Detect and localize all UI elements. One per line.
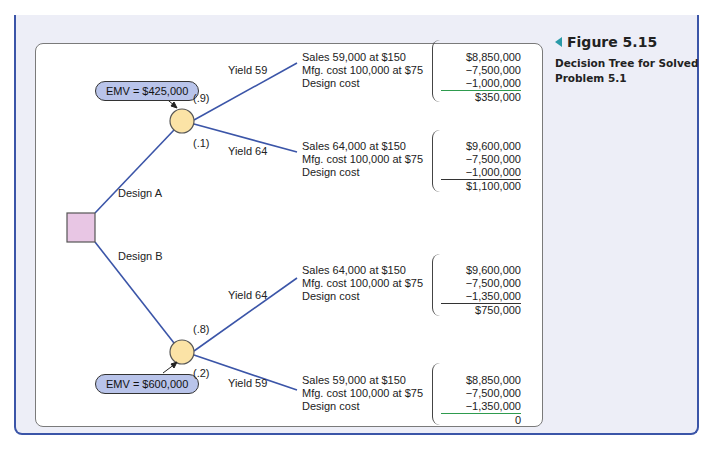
sales-line: Sales 59,000 at $150 xyxy=(302,51,423,64)
design-cost-line: Design cost xyxy=(302,166,423,179)
outcome-a-yield64-values: $9,600,000 −7,500,000 −1,000,000 $1,100,… xyxy=(441,140,521,193)
outcome-b-yield64-values: $9,600,000 −7,500,000 −1,350,000 $750,00… xyxy=(441,264,521,317)
mfg-cost-line: Mfg. cost 100,000 at $75 xyxy=(302,277,423,290)
emv-bubble-design-b: EMV = $600,000 xyxy=(95,374,199,394)
mfg-cost-line: Mfg. cost 100,000 at $75 xyxy=(302,153,423,166)
probability-b-yield64: (.8) xyxy=(193,323,210,335)
value-mfg: −7,500,000 xyxy=(441,387,521,400)
branch-design-a-line xyxy=(95,130,174,213)
value-design: −1,350,000 xyxy=(441,400,521,414)
sales-line: Sales 64,000 at $150 xyxy=(302,264,423,277)
probability-b-yield59: (.2) xyxy=(193,367,210,379)
outcome-a-yield59-description: Sales 59,000 at $150 Mfg. cost 100,000 a… xyxy=(302,51,423,90)
value-design: −1,000,000 xyxy=(441,77,521,91)
brace-icon xyxy=(432,254,441,316)
value-mfg: −7,500,000 xyxy=(441,64,521,77)
value-total: $750,000 xyxy=(441,304,521,317)
figure-number: Figure 5.15 xyxy=(567,34,657,50)
brace-icon xyxy=(432,363,441,425)
yield-label-a-64: Yield 64 xyxy=(228,145,267,157)
value-sales: $9,600,000 xyxy=(441,264,521,277)
probability-a-yield59: (.9) xyxy=(193,92,210,104)
mfg-cost-line: Mfg. cost 100,000 at $75 xyxy=(302,387,423,400)
yield-label-b-59: Yield 59 xyxy=(228,377,267,389)
value-total: 0 xyxy=(441,414,521,427)
figure-caption: Figure 5.15 Decision Tree for Solved Pro… xyxy=(555,34,705,86)
design-a-label: Design A xyxy=(118,187,162,199)
decision-node-square xyxy=(67,213,95,242)
design-cost-line: Design cost xyxy=(302,290,423,303)
brace-icon xyxy=(432,130,441,192)
design-b-label: Design B xyxy=(118,250,163,262)
outcome-a-yield59-values: $8,850,000 −7,500,000 −1,000,000 $350,00… xyxy=(441,51,521,104)
caption-arrow-icon xyxy=(555,37,562,47)
sales-line: Sales 64,000 at $150 xyxy=(302,140,423,153)
value-design: −1,000,000 xyxy=(441,166,521,180)
chance-node-a xyxy=(170,109,194,133)
design-cost-line: Design cost xyxy=(302,77,423,90)
value-sales: $8,850,000 xyxy=(441,51,521,64)
figure-subtitle: Decision Tree for Solved Problem 5.1 xyxy=(555,56,705,86)
brace-icon xyxy=(432,40,441,102)
value-total: $1,100,000 xyxy=(441,180,521,193)
yield-label-b-64: Yield 64 xyxy=(228,289,267,301)
probability-a-yield64: (.1) xyxy=(193,137,210,149)
value-mfg: −7,500,000 xyxy=(441,153,521,166)
outcome-b-yield59-values: $8,850,000 −7,500,000 −1,350,000 0 xyxy=(441,374,521,427)
value-design: −1,350,000 xyxy=(441,290,521,304)
chance-node-b xyxy=(170,340,194,364)
outcome-b-yield64-description: Sales 64,000 at $150 Mfg. cost 100,000 a… xyxy=(302,264,423,303)
outcome-a-yield64-description: Sales 64,000 at $150 Mfg. cost 100,000 a… xyxy=(302,140,423,179)
value-mfg: −7,500,000 xyxy=(441,277,521,290)
sales-line: Sales 59,000 at $150 xyxy=(302,374,423,387)
value-total: $350,000 xyxy=(441,91,521,104)
figure-title: Figure 5.15 xyxy=(555,34,705,50)
emv-bubble-design-a: EMV = $425,000 xyxy=(95,81,199,101)
value-sales: $8,850,000 xyxy=(441,374,521,387)
mfg-cost-line: Mfg. cost 100,000 at $75 xyxy=(302,64,423,77)
yield-label-a-59: Yield 59 xyxy=(228,64,267,76)
design-cost-line: Design cost xyxy=(302,400,423,413)
value-sales: $9,600,000 xyxy=(441,140,521,153)
outcome-b-yield59-description: Sales 59,000 at $150 Mfg. cost 100,000 a… xyxy=(302,374,423,413)
